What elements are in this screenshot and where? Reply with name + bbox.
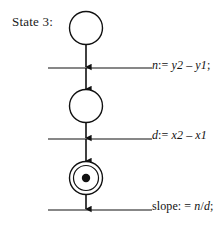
annotation-3-semicolon: ;: [210, 199, 213, 213]
petri-net-diagram: State 3:: [0, 0, 222, 229]
place-top: [70, 12, 103, 45]
place-group: [70, 12, 103, 195]
annotation-2-minus: –: [183, 128, 195, 142]
annotation-1-assign: :=: [158, 58, 171, 72]
transition-annotation-3: slope: = n/d;: [152, 199, 213, 214]
annotation-1-minus: –: [183, 58, 195, 72]
place-bottom-token: [82, 174, 90, 182]
annotation-2-assign: :=: [158, 128, 171, 142]
annotation-1-var-y2: y2: [172, 58, 184, 72]
transition-annotation-1: n:= y2 – y1;: [152, 58, 210, 73]
annotation-2-var-x2: x2: [172, 128, 184, 142]
annotation-1-var-y1: y1: [195, 58, 207, 72]
place-middle: [70, 90, 103, 123]
annotation-2-var-x1: x1: [195, 128, 207, 142]
transition-annotation-2: d:= x2 – x1: [152, 128, 207, 143]
transition-bar-group: [48, 68, 152, 210]
annotation-1-semicolon: ;: [207, 58, 210, 72]
petri-net-canvas: [0, 0, 222, 229]
annotation-3-label: slope: =: [152, 199, 194, 213]
